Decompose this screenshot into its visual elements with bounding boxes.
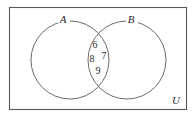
venn-diagram: A B U 6 7 8 9 [0, 0, 196, 118]
intersection-element-6: 6 [93, 39, 98, 50]
intersection-element-9: 9 [96, 65, 101, 76]
universe-label: U [172, 94, 181, 106]
intersection-element-8: 8 [90, 53, 95, 64]
set-b-label: B [128, 13, 135, 25]
venn-diagram-canvas: A B U 6 7 8 9 [0, 0, 196, 118]
set-a-circle [31, 21, 109, 99]
universe-rectangle [10, 8, 187, 110]
set-a-label: A [59, 13, 67, 25]
intersection-element-7: 7 [102, 50, 107, 61]
set-b-circle [88, 21, 166, 99]
